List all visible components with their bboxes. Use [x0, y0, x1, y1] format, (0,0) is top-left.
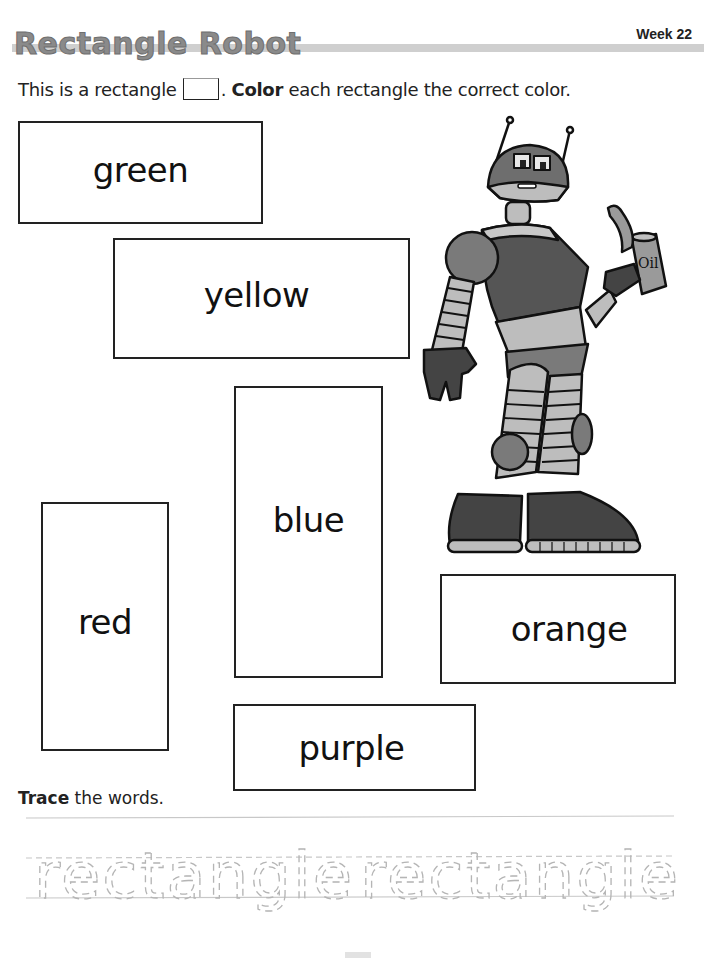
- svg-text:Oil: Oil: [638, 255, 659, 271]
- trace-bold: Trace: [18, 788, 69, 808]
- trace-instructions: Trace the words.: [18, 788, 164, 808]
- rectangle-orange[interactable]: orange: [440, 574, 676, 684]
- rectangle-yellow[interactable]: yellow: [113, 238, 410, 359]
- rectangle-blue[interactable]: blue: [234, 386, 383, 678]
- trace-word-1[interactable]: rectangle: [34, 839, 354, 913]
- tracing-lines: rectangle rectangle: [20, 812, 680, 942]
- robot-illustration: Oil: [410, 112, 704, 572]
- instructions-bold: Color: [231, 79, 283, 100]
- week-label: Week 22: [636, 26, 692, 42]
- rectangle-red[interactable]: red: [41, 502, 169, 751]
- rectangle-label: purple: [298, 728, 404, 768]
- example-rectangle-icon: [183, 78, 219, 100]
- instructions-text-1: This is a rectangle: [18, 79, 177, 100]
- rectangle-green[interactable]: green: [18, 121, 263, 224]
- page-title: Rectangle Robot: [14, 26, 301, 62]
- rectangle-label: green: [93, 150, 189, 190]
- rectangle-label: red: [78, 602, 132, 642]
- rectangle-label: orange: [511, 609, 628, 649]
- rectangle-label: yellow: [204, 275, 310, 315]
- rectangle-purple[interactable]: purple: [233, 704, 476, 791]
- instructions: This is a rectangle. Color each rectangl…: [18, 78, 571, 102]
- trace-word-2[interactable]: rectangle: [360, 839, 680, 913]
- rectangle-label: blue: [273, 500, 345, 540]
- page-number-marker: [345, 952, 371, 958]
